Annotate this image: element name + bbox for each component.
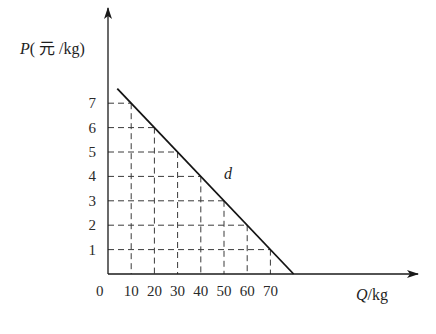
x-axis-label: Q/kg <box>356 286 388 304</box>
x-axis-unit: /kg <box>368 286 388 304</box>
y-axis-unit: ( 元 /kg) <box>30 40 85 58</box>
y-tick-label: 7 <box>89 95 97 111</box>
curve-label-d: d <box>224 165 233 182</box>
y-tick-label: 2 <box>89 217 97 233</box>
x-tick-label: 70 <box>263 283 278 299</box>
x-tick-label: 60 <box>240 283 255 299</box>
x-tick-label: 40 <box>193 283 208 299</box>
dashed-reference-lines <box>108 103 270 274</box>
demand-line <box>117 89 293 274</box>
demand-curve-chart: 123456710203040506070 P( 元 /kg) Q/kg 0 d <box>0 0 436 334</box>
x-tick-label: 30 <box>170 283 185 299</box>
y-axis-label: P( 元 /kg) <box>19 40 85 58</box>
x-tick-label: 50 <box>217 283 232 299</box>
demand-curve-d <box>117 89 293 274</box>
y-tick-label: 5 <box>89 144 97 160</box>
y-tick-label: 4 <box>89 168 97 184</box>
x-tick-label: 10 <box>124 283 139 299</box>
x-tick-label: 20 <box>147 283 162 299</box>
x-axis-variable: Q <box>356 286 368 303</box>
y-tick-label: 3 <box>89 193 97 209</box>
y-tick-label: 1 <box>89 242 97 258</box>
tick-labels: 123456710203040506070 <box>89 95 278 299</box>
y-axis-variable: P <box>19 40 30 57</box>
y-tick-label: 6 <box>89 120 97 136</box>
origin-label: 0 <box>96 283 104 299</box>
